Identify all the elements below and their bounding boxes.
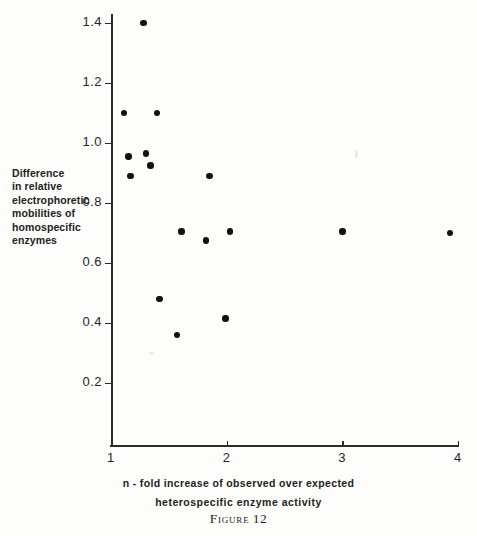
data-point (206, 173, 212, 179)
figure-caption: Figure 12 (0, 511, 477, 527)
y-axis-title-line: homospecific (12, 221, 108, 234)
data-point (447, 230, 453, 236)
x-axis-title-line1: n - fold increase of observed over expec… (0, 474, 477, 493)
y-axis-tick-label: 0.8 (82, 194, 102, 209)
data-point (222, 315, 228, 321)
x-axis-tick-label: 1 (107, 450, 115, 465)
scatter-plot-area (111, 23, 458, 383)
x-axis-tick (227, 441, 228, 447)
y-axis-title-line: enzymes (12, 234, 108, 247)
data-point (154, 110, 160, 116)
y-axis-tick-label: 1.0 (82, 134, 102, 149)
x-axis-tick (458, 441, 459, 447)
data-point (147, 162, 153, 168)
data-point (339, 228, 345, 234)
x-axis-title-line2: heterospecific enzyme activity (0, 493, 477, 512)
x-axis-title: n - fold increase of observed over expec… (0, 474, 477, 512)
data-point (178, 228, 184, 234)
y-axis-tick-label: 0.2 (82, 374, 102, 389)
figure-container: Difference in relative electrophoretic m… (0, 0, 477, 536)
y-axis-tick (105, 383, 111, 384)
figure-caption-number: 12 (253, 511, 268, 526)
x-axis-tick-label: 2 (223, 450, 231, 465)
y-axis-title-line: in relative (12, 180, 108, 193)
x-axis-line (110, 445, 459, 447)
figure-caption-label: Figure (210, 511, 250, 526)
data-point (156, 296, 162, 302)
y-axis-tick-label: 1.4 (82, 14, 102, 29)
x-axis-tick-label: 3 (338, 450, 346, 465)
data-point (143, 150, 149, 156)
x-axis-tick (111, 441, 112, 447)
x-axis-tick (342, 441, 343, 447)
y-axis-tick-label: 0.6 (82, 254, 102, 269)
x-axis-tick-label: 4 (454, 450, 462, 465)
data-point (227, 228, 233, 234)
y-axis-title-line: Difference (12, 167, 108, 180)
data-point (174, 332, 180, 338)
data-point (121, 110, 127, 116)
y-axis-tick-label: 1.2 (82, 74, 102, 89)
y-axis-tick-label: 0.4 (82, 314, 102, 329)
data-point (127, 173, 133, 179)
y-axis-title-line: mobilities of (12, 207, 108, 220)
data-point (203, 237, 209, 243)
data-point (125, 153, 131, 159)
data-point (140, 20, 146, 26)
